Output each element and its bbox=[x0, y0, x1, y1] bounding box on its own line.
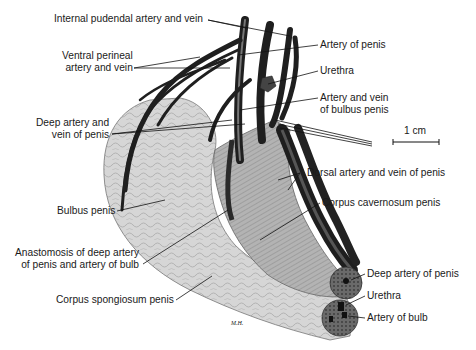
label-artery-of-penis: Artery of penis bbox=[320, 39, 386, 51]
label-corpus-spongiosum-penis: Corpus spongiosum penis bbox=[56, 294, 174, 306]
label-internal-pudendal-artery-vein: Internal pudendal artery and vein bbox=[54, 13, 203, 25]
label-line: Deep artery and bbox=[36, 117, 109, 129]
label-line: vein of penis bbox=[36, 129, 109, 141]
label-line: Corpus spongiosum penis bbox=[56, 294, 174, 306]
label-line: of bulbus penis bbox=[320, 104, 389, 116]
label-urethra-top: Urethra bbox=[320, 65, 354, 77]
label-line: Bulbus penis bbox=[57, 205, 115, 217]
label-line: Urethra bbox=[367, 290, 401, 302]
label-line: Corpus cavernosum penis bbox=[322, 197, 440, 209]
label-line: Dorsal artery and vein of penis bbox=[307, 167, 445, 179]
label-urethra-bottom: Urethra bbox=[367, 290, 401, 302]
label-deep-artery-of-penis: Deep artery of penis bbox=[367, 268, 459, 280]
label-line: Artery of penis bbox=[320, 39, 386, 51]
label-line: Ventral perineal bbox=[62, 50, 133, 62]
label-line: Urethra bbox=[320, 65, 354, 77]
label-line: of penis and artery of bulb bbox=[15, 259, 139, 271]
label-line: Artery and vein bbox=[320, 92, 389, 104]
label-dorsal-artery-vein-of-penis: Dorsal artery and vein of penis bbox=[307, 167, 445, 179]
label-artery-of-bulb: Artery of bulb bbox=[367, 312, 428, 324]
label-line: artery and vein bbox=[62, 62, 133, 74]
scale-bar-label: 1 cm bbox=[404, 125, 426, 136]
label-corpus-cavernosum-penis: Corpus cavernosum penis bbox=[322, 197, 440, 209]
label-line: Artery of bulb bbox=[367, 312, 428, 324]
label-line: Internal pudendal artery and vein bbox=[54, 13, 203, 25]
anatomy-figure: Internal pudendal artery and vein Ventra… bbox=[0, 0, 476, 350]
label-line: Deep artery of penis bbox=[367, 268, 459, 280]
label-artery-vein-of-bulbus-penis: Artery and vein of bulbus penis bbox=[320, 92, 389, 116]
label-ventral-perineal-artery-vein: Ventral perineal artery and vein bbox=[62, 50, 133, 74]
label-line: Anastomosis of deep artery bbox=[15, 247, 139, 259]
scale-bar bbox=[393, 139, 439, 145]
label-bulbus-penis: Bulbus penis bbox=[57, 205, 115, 217]
label-deep-artery-vein-of-penis: Deep artery and vein of penis bbox=[36, 117, 109, 141]
illustrator-signature: M.H. bbox=[231, 320, 243, 326]
label-anastomosis: Anastomosis of deep artery of penis and … bbox=[15, 247, 139, 271]
